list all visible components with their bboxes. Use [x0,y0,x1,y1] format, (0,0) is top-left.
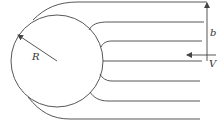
streamline-3 [101,41,202,47]
streamline-1 [33,2,207,20]
sphere-flow-diagram: R b V [0,0,218,133]
streamline-2 [89,22,204,30]
streamlines [28,2,207,119]
streamline-5 [100,74,200,81]
streamline-7 [28,97,200,119]
streamline-6 [90,92,200,101]
radius-label: R [31,51,40,62]
impact-parameter-label: b [210,27,216,38]
velocity-label: V [209,58,218,69]
